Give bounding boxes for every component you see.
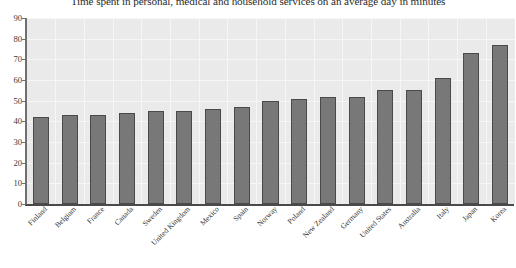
bar bbox=[349, 97, 365, 204]
y-axis-tick-label: 50 bbox=[0, 96, 22, 105]
bar bbox=[406, 90, 422, 204]
x-axis-tick-label-text: Mexico bbox=[198, 205, 221, 228]
x-axis-tick-label-text: Poland bbox=[286, 205, 307, 226]
x-axis-tick-label-text: Korea bbox=[489, 205, 508, 224]
bar bbox=[435, 78, 451, 204]
y-axis-tick-mark bbox=[22, 183, 26, 184]
x-axis-tick-label-text: Sweden bbox=[140, 205, 163, 228]
bar bbox=[234, 107, 250, 204]
bar bbox=[33, 117, 49, 204]
bar bbox=[320, 97, 336, 204]
bars-layer bbox=[27, 18, 515, 204]
x-axis-tick-label: Belgium bbox=[54, 206, 79, 231]
bar bbox=[205, 109, 221, 204]
x-axis-tick-label-text: Spain bbox=[231, 205, 250, 224]
y-axis-tick-mark bbox=[22, 80, 26, 81]
x-axis-tick-label-text: Norway bbox=[255, 205, 279, 229]
x-axis-tick-label-text: Germany bbox=[338, 205, 364, 231]
y-axis-tick-mark bbox=[22, 39, 26, 40]
x-axis-tick-label: Norway bbox=[256, 206, 280, 230]
x-axis-tick-label: Australia bbox=[397, 206, 423, 232]
x-axis-tick-label-text: Italy bbox=[434, 205, 450, 221]
x-axis-tick-label-text: Canada bbox=[112, 205, 134, 227]
y-axis: 9080706050403020100 bbox=[0, 12, 22, 206]
bar bbox=[291, 99, 307, 204]
x-axis: FinlandBelgiumFranceCanadaSwedenUnited K… bbox=[27, 206, 515, 268]
y-axis-tick-mark bbox=[22, 163, 26, 164]
x-axis-tick-label: Sweden bbox=[142, 206, 165, 229]
chart-title: Time spent in personal, medical and hous… bbox=[0, 0, 516, 7]
y-axis-tick-label: 60 bbox=[0, 76, 22, 85]
plot-area bbox=[27, 18, 515, 204]
x-axis-tick-label: Italy bbox=[436, 206, 452, 222]
y-axis-tick-label: 80 bbox=[0, 34, 22, 43]
bar bbox=[119, 113, 135, 204]
x-axis-tick-label: Canada bbox=[114, 206, 136, 228]
y-axis-tick-mark bbox=[22, 142, 26, 143]
y-axis-tick-label: 10 bbox=[0, 179, 22, 188]
x-axis-tick-label: Poland bbox=[287, 206, 308, 227]
x-axis-tick-label: Mexico bbox=[200, 206, 223, 229]
bar-chart: Time spent in personal, medical and hous… bbox=[0, 0, 516, 268]
y-axis-tick-mark bbox=[22, 18, 26, 19]
y-axis-tick-label: 90 bbox=[0, 14, 22, 23]
bar bbox=[90, 115, 106, 204]
y-axis-tick-label: 20 bbox=[0, 158, 22, 167]
x-axis-tick-label: Japan bbox=[462, 206, 481, 225]
bar bbox=[463, 53, 479, 204]
y-axis-tick-mark bbox=[22, 121, 26, 122]
bar bbox=[176, 111, 192, 204]
x-axis-tick-label: Spain bbox=[233, 206, 252, 225]
x-axis-tick-label-text: Belgium bbox=[53, 205, 78, 230]
x-axis-tick-label-text: Japan bbox=[461, 205, 480, 224]
y-axis-tick-label: 70 bbox=[0, 55, 22, 64]
x-axis-tick-label-text: Finland bbox=[26, 205, 49, 228]
y-axis-tick-mark bbox=[22, 101, 26, 102]
bar bbox=[492, 45, 508, 204]
y-axis-tick-label: 0 bbox=[0, 200, 22, 209]
x-axis-tick-label: Finland bbox=[27, 206, 50, 229]
x-axis-tick-label-text: France bbox=[85, 205, 106, 226]
y-axis-tick-mark bbox=[22, 59, 26, 60]
bar bbox=[377, 90, 393, 204]
y-axis-tick-mark bbox=[22, 204, 26, 205]
bar bbox=[148, 111, 164, 204]
bar bbox=[62, 115, 78, 204]
y-axis-tick-label: 40 bbox=[0, 117, 22, 126]
x-axis-tick-label-text: Australia bbox=[396, 205, 422, 231]
bar bbox=[262, 101, 278, 204]
x-axis-tick-label: Korea bbox=[490, 206, 509, 225]
x-axis-tick-label: France bbox=[87, 206, 108, 227]
y-axis-tick-label: 30 bbox=[0, 138, 22, 147]
